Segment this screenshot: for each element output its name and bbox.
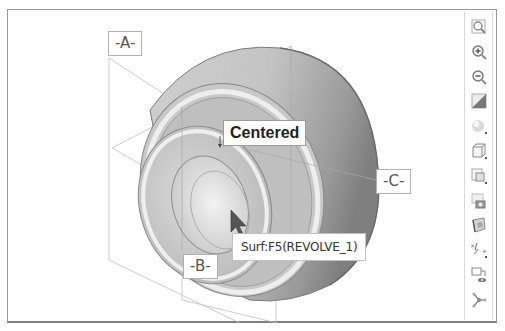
model-scene[interactable] — [0, 0, 505, 331]
revolve-part[interactable] — [113, 47, 379, 320]
zoom-in-icon — [470, 43, 488, 61]
centered-annotation[interactable]: Centered — [223, 120, 306, 146]
view-manager-button[interactable] — [468, 165, 490, 187]
datum-label-c[interactable]: -C- — [376, 169, 411, 194]
datum-display-button[interactable]: ×⁄⁄+ — [468, 239, 490, 261]
spin-center-icon — [470, 291, 488, 309]
view-manager-icon — [470, 167, 488, 185]
zoom-out-icon — [470, 68, 488, 86]
repaint-icon — [470, 92, 488, 110]
section-view-icon — [470, 216, 488, 234]
saved-orientations-button[interactable] — [468, 140, 490, 162]
spin-center-button[interactable] — [468, 289, 490, 311]
saved-orientations-icon — [470, 142, 488, 160]
zoom-out-button[interactable] — [468, 66, 490, 88]
section-button[interactable] — [468, 214, 490, 236]
perspective-button[interactable] — [468, 190, 490, 212]
svg-text:⁄⁄: ⁄⁄ — [473, 248, 479, 256]
perspective-icon — [470, 192, 488, 210]
display-style-icon — [470, 117, 488, 135]
annotation-display-icon — [470, 266, 488, 284]
datum-label-a[interactable]: -A- — [108, 31, 142, 56]
datum-label-b[interactable]: -B- — [183, 254, 218, 279]
svg-text:+: + — [482, 247, 487, 254]
refit-button[interactable] — [468, 16, 490, 38]
view-toolbar: ×⁄⁄+ — [464, 12, 493, 320]
annotation-display-button[interactable] — [468, 264, 490, 286]
surface-tooltip: Surf:F5(REVOLVE_1) — [232, 233, 366, 261]
zoom-fit-icon — [470, 18, 488, 36]
display-style-button[interactable] — [468, 115, 490, 137]
datum-display-icon: ×⁄⁄+ — [470, 241, 488, 259]
zoom-in-button[interactable] — [468, 41, 490, 63]
repaint-button[interactable] — [468, 90, 490, 112]
